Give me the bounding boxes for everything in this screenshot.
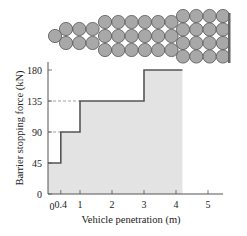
barrel xyxy=(190,9,203,22)
barrel xyxy=(59,36,72,49)
y-tick-label: 90 xyxy=(32,127,42,138)
y-tick-label: 135 xyxy=(27,96,42,107)
barrel xyxy=(203,50,216,63)
barrel xyxy=(73,36,86,49)
barrel xyxy=(73,22,86,35)
backstop-wall xyxy=(228,13,231,63)
x-tick-label: 2 xyxy=(110,199,115,210)
barrel xyxy=(165,15,178,28)
barrel xyxy=(98,15,111,28)
barrel xyxy=(203,9,216,22)
barrel xyxy=(190,36,203,49)
barrel xyxy=(138,29,151,42)
barrel xyxy=(86,22,99,35)
barrel xyxy=(152,43,165,56)
barrel xyxy=(216,36,229,49)
x-tick-label: 4 xyxy=(174,199,179,210)
barrel xyxy=(216,23,229,36)
x-tick-label: 0.4 xyxy=(55,199,68,210)
x-tick-label: 3 xyxy=(142,199,147,210)
reference-lines xyxy=(48,101,80,132)
barrel xyxy=(59,22,72,35)
barrel xyxy=(176,50,189,63)
barrel xyxy=(125,29,138,42)
barrel xyxy=(176,9,189,22)
barrel xyxy=(98,43,111,56)
barrel xyxy=(190,50,203,63)
barrel xyxy=(138,15,151,28)
y-tick-label: 45 xyxy=(32,158,42,169)
barrel xyxy=(152,15,165,28)
barrel xyxy=(152,29,165,42)
y-axis-title: Barrier stopping force (kN) xyxy=(14,70,26,186)
x-axis-title: Vehicle penetration (m) xyxy=(81,214,181,226)
y-tick-label: 0 xyxy=(37,189,42,200)
barrel-array-illustration xyxy=(48,9,229,63)
barrel xyxy=(125,15,138,28)
x-origin-label: 0 xyxy=(50,201,55,212)
barrel xyxy=(112,15,125,28)
barrel xyxy=(216,50,229,63)
barrel xyxy=(86,36,99,49)
x-tick-label: 1 xyxy=(78,199,83,210)
barrel xyxy=(203,23,216,36)
barrel xyxy=(190,23,203,36)
figure: 04590135180 0.412345 0 Vehicle penetrati… xyxy=(0,0,247,236)
y-tick-label: 180 xyxy=(27,65,42,76)
chart: 04590135180 0.412345 0 Vehicle penetrati… xyxy=(14,62,223,226)
barrel xyxy=(176,36,189,49)
barrel xyxy=(112,29,125,42)
barrel xyxy=(176,23,189,36)
barrel xyxy=(165,43,178,56)
barrel xyxy=(125,43,138,56)
x-tick-label: 5 xyxy=(206,199,211,210)
barrel xyxy=(165,29,178,42)
barrel xyxy=(98,29,111,42)
barrel xyxy=(138,43,151,56)
barrel xyxy=(203,36,216,49)
barrel xyxy=(216,9,229,22)
barrel xyxy=(112,43,125,56)
